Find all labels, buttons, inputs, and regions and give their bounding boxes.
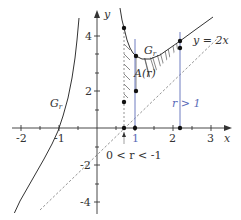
y-tick-label: 2 bbox=[85, 85, 92, 98]
area-label: A(r) bbox=[133, 67, 156, 80]
x-tick-label: 2 bbox=[169, 132, 176, 145]
x-tick-label: 1 bbox=[132, 132, 139, 145]
case-small-label: 0 < r < -1 bbox=[106, 149, 161, 162]
x-axis-label: x bbox=[224, 132, 231, 145]
x-axis-arrow-icon bbox=[224, 125, 232, 131]
x-tick-label: 3 bbox=[207, 132, 214, 145]
graph-figure: -2 -1 1 2 3 x 4 2 -2 -4 y Gr Gr y = 2x A… bbox=[0, 0, 241, 220]
curve-right-label: Gr bbox=[144, 44, 157, 58]
pointer-arrow-icon bbox=[122, 132, 126, 137]
area-hatching bbox=[100, 20, 178, 110]
y-axis-label: y bbox=[103, 8, 111, 21]
y-tick-label: -2 bbox=[80, 159, 91, 172]
x-tick-label: -1 bbox=[54, 132, 65, 145]
asymptote-line bbox=[40, 38, 218, 210]
case-large-label: r > 1 bbox=[172, 97, 200, 110]
y-tick-label: 4 bbox=[85, 30, 92, 43]
y-axis-arrow-icon bbox=[94, 10, 100, 18]
plot-canvas: -2 -1 1 2 3 x 4 2 -2 -4 y Gr Gr y = 2x A… bbox=[0, 0, 241, 220]
curve-left-label: Gr bbox=[50, 97, 63, 111]
curve-left-branch bbox=[14, 18, 79, 213]
y-tick-label: -4 bbox=[80, 196, 91, 209]
x-axis bbox=[12, 125, 228, 131]
asymptote-label: y = 2x bbox=[192, 34, 229, 47]
x-tick-label: -2 bbox=[16, 132, 27, 145]
y-axis bbox=[94, 14, 100, 214]
